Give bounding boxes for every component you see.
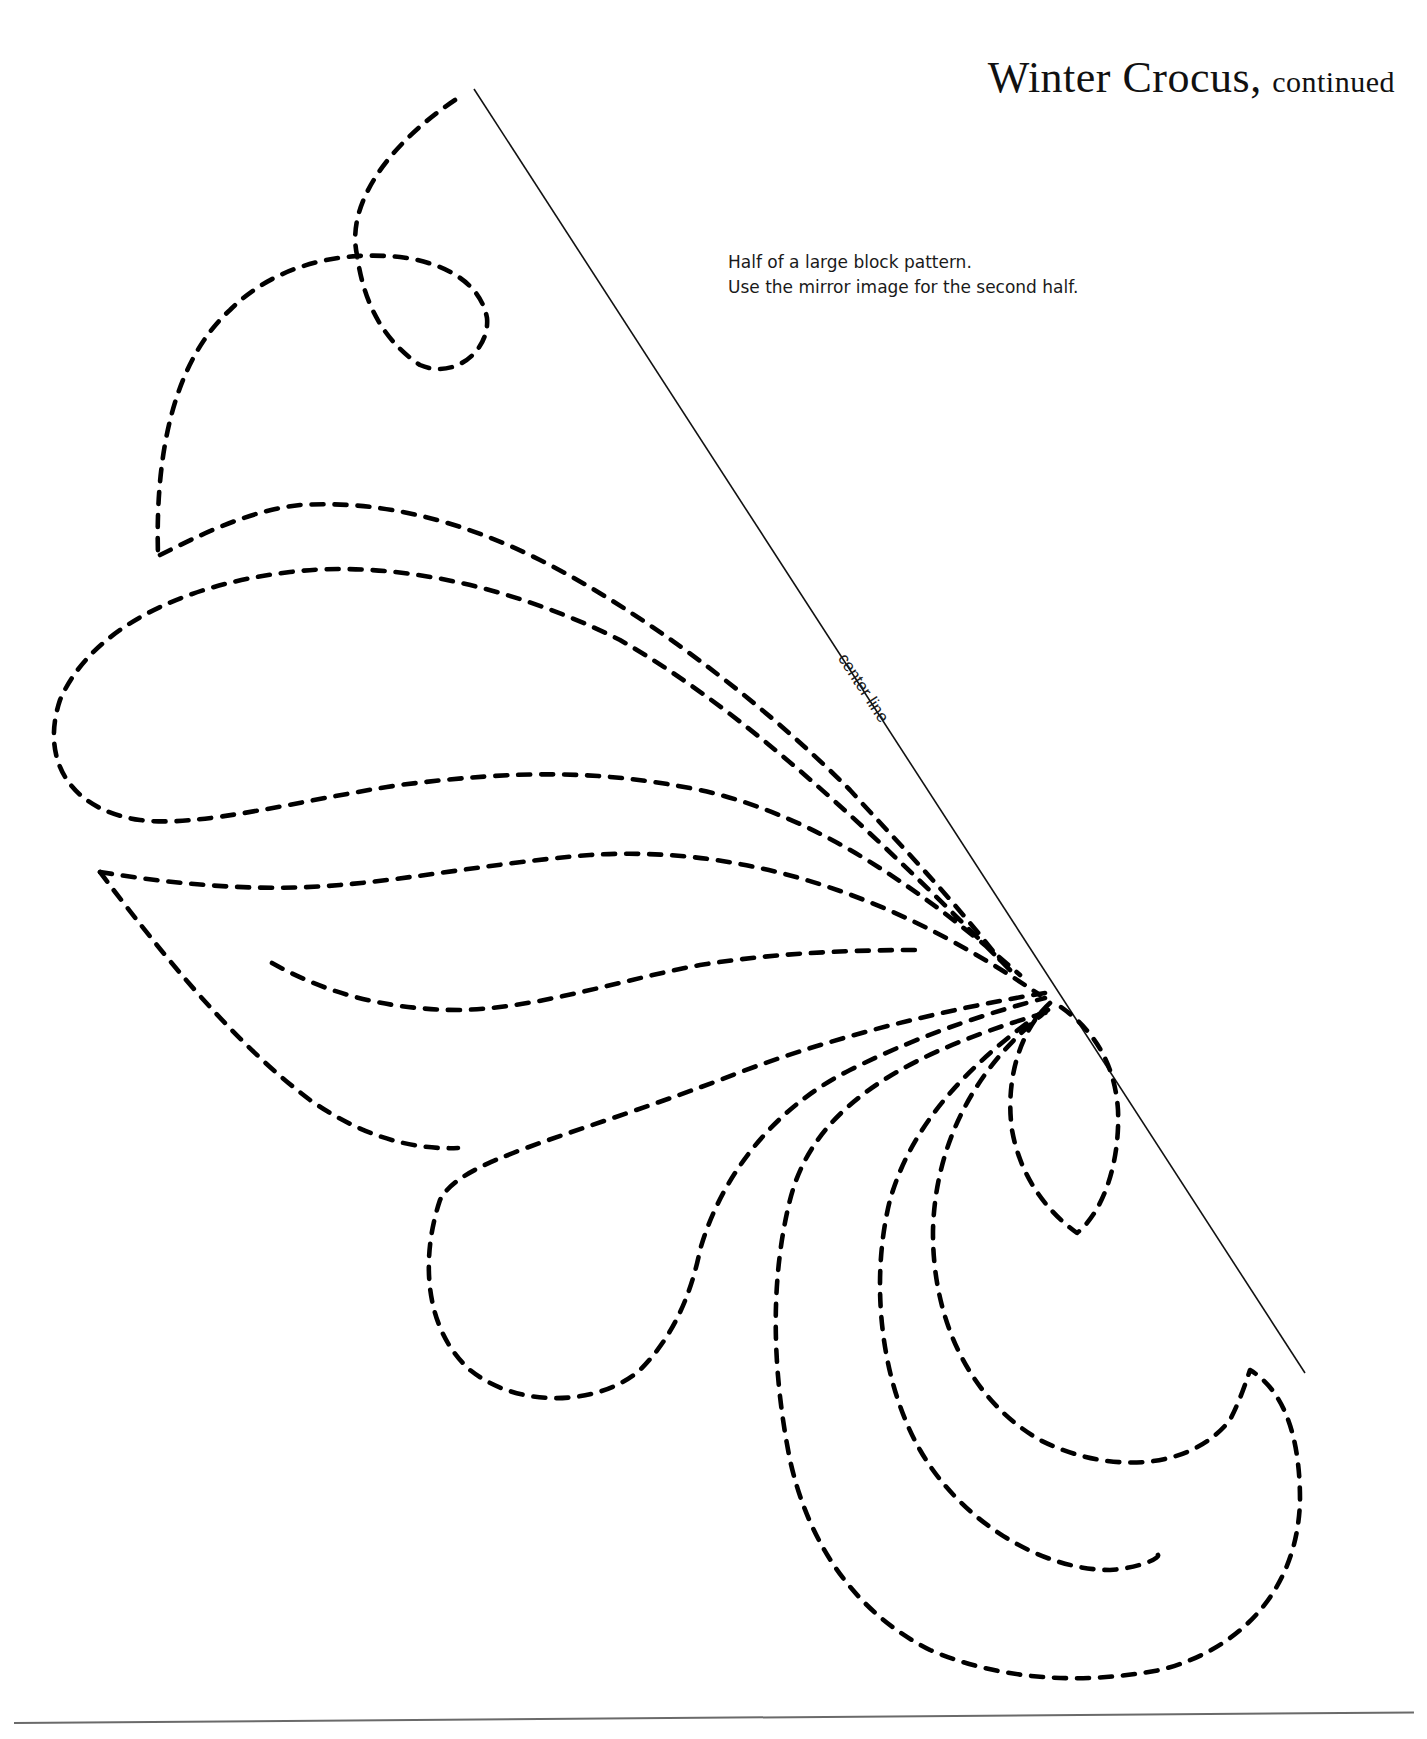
center-line <box>474 89 1305 1373</box>
hook-crescent <box>776 1010 1300 1678</box>
lower-triangular-leaf <box>100 872 458 1148</box>
middle-leaf-upper <box>100 854 1040 995</box>
inner-stem-curve <box>272 950 920 1010</box>
small-pointed-petal <box>1010 1003 1118 1233</box>
large-left-leaf <box>54 569 1020 975</box>
upper-petal-outline <box>158 100 487 555</box>
quilting-pattern-diagram <box>0 0 1427 1739</box>
